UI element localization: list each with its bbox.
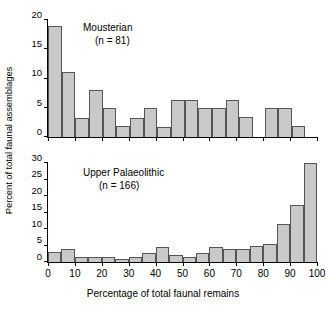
x-tick-mousterian-80 — [263, 137, 264, 141]
panel-upper-palaeolithic: 051015202530 0102030405060708090100 Uppe… — [47, 163, 317, 263]
x-tick-label-upper-palaeolithic-80: 80 — [258, 268, 269, 279]
bar-mousterian-20-25 — [103, 108, 117, 137]
x-tick-upper-palaeolithic-90 — [290, 262, 291, 266]
bar-mousterian-10-15 — [75, 118, 89, 137]
y-tick-label-upper-palaeolithic-20: 20 — [31, 184, 42, 195]
bar-mousterian-55-60 — [198, 108, 212, 137]
x-tick-upper-palaeolithic-40 — [156, 262, 157, 266]
bar-upper-palaeolithic-45-50 — [169, 255, 182, 262]
histogram-figure: Percent of total faunal assemblages 0510… — [0, 0, 326, 314]
y-tick-upper-palaeolithic-5 — [44, 245, 48, 246]
bar-mousterian-80-85 — [265, 108, 279, 137]
bar-mousterian-30-35 — [130, 118, 144, 137]
bar-mousterian-70-75 — [239, 117, 253, 137]
x-tick-label-upper-palaeolithic-60: 60 — [204, 268, 215, 279]
panel-title-upper-palaeolithic: Upper Palaeolithic — [83, 167, 164, 178]
bar-mousterian-0-5 — [48, 26, 62, 137]
bar-mousterian-5-10 — [62, 72, 76, 137]
y-tick-mousterian-5 — [44, 107, 48, 108]
x-tick-upper-palaeolithic-30 — [129, 262, 130, 266]
bar-upper-palaeolithic-55-60 — [196, 253, 209, 262]
y-tick-label-mousterian-10: 10 — [31, 67, 42, 78]
bar-mousterian-40-45 — [157, 127, 171, 137]
x-tick-upper-palaeolithic-0 — [48, 262, 49, 266]
y-tick-label-upper-palaeolithic-25: 25 — [31, 168, 42, 179]
bar-upper-palaeolithic-75-80 — [250, 246, 263, 262]
bar-upper-palaeolithic-0-5 — [48, 252, 61, 262]
bar-mousterian-60-65 — [212, 108, 226, 137]
y-tick-label-mousterian-15: 15 — [31, 38, 42, 49]
y-tick-label-mousterian-5: 5 — [37, 96, 42, 107]
x-tick-upper-palaeolithic-50 — [183, 262, 184, 266]
bar-group-mousterian — [48, 20, 317, 137]
panel-subtitle-upper-palaeolithic: (n = 166) — [99, 180, 139, 191]
x-tick-mousterian-30 — [129, 137, 130, 141]
x-tick-upper-palaeolithic-10 — [75, 262, 76, 266]
bar-upper-palaeolithic-85-90 — [277, 224, 290, 262]
y-tick-label-upper-palaeolithic-5: 5 — [37, 234, 42, 245]
y-axis-title-container: Percent of total faunal assemblages — [0, 0, 18, 280]
x-tick-mousterian-90 — [290, 137, 291, 141]
bar-upper-palaeolithic-40-45 — [156, 247, 169, 262]
bar-upper-palaeolithic-30-35 — [129, 257, 142, 262]
y-tick-label-upper-palaeolithic-10: 10 — [31, 217, 42, 228]
x-tick-mousterian-10 — [75, 137, 76, 141]
bar-upper-palaeolithic-60-65 — [209, 247, 222, 262]
y-tick-label-upper-palaeolithic-0: 0 — [37, 250, 42, 261]
y-tick-upper-palaeolithic-15 — [44, 212, 48, 213]
bar-upper-palaeolithic-10-15 — [75, 257, 88, 262]
y-tick-mousterian-15 — [44, 48, 48, 49]
bar-mousterian-25-30 — [116, 126, 130, 137]
y-axis-title: Percent of total faunal assemblages — [4, 66, 15, 214]
x-tick-mousterian-70 — [236, 137, 237, 141]
x-tick-mousterian-50 — [183, 137, 184, 141]
y-tick-mousterian-10 — [44, 78, 48, 79]
x-axis-title: Percentage of total faunal remains — [0, 288, 326, 299]
x-tick-mousterian-20 — [102, 137, 103, 141]
bar-mousterian-85-90 — [278, 108, 292, 137]
bar-upper-palaeolithic-50-55 — [183, 257, 196, 262]
bar-upper-palaeolithic-70-75 — [236, 249, 249, 262]
x-tick-label-upper-palaeolithic-50: 50 — [177, 268, 188, 279]
bar-mousterian-15-20 — [89, 90, 103, 137]
x-tick-label-upper-palaeolithic-10: 10 — [69, 268, 80, 279]
bar-mousterian-35-40 — [144, 108, 158, 137]
x-tick-mousterian-100 — [317, 137, 318, 141]
plot-area-upper-palaeolithic: 051015202530 0102030405060708090100 — [47, 163, 317, 263]
y-tick-mousterian-20 — [44, 19, 48, 20]
x-tick-label-upper-palaeolithic-100: 100 — [309, 268, 326, 279]
x-tick-upper-palaeolithic-80 — [263, 262, 264, 266]
bar-upper-palaeolithic-5-10 — [61, 249, 74, 262]
bar-upper-palaeolithic-90-95 — [290, 205, 303, 262]
bar-upper-palaeolithic-95-100 — [304, 163, 317, 262]
y-tick-upper-palaeolithic-30 — [44, 162, 48, 163]
bar-upper-palaeolithic-65-70 — [223, 249, 236, 262]
x-tick-label-upper-palaeolithic-90: 90 — [285, 268, 296, 279]
bar-upper-palaeolithic-20-25 — [102, 257, 115, 262]
bar-upper-palaeolithic-15-20 — [88, 257, 101, 262]
y-tick-label-upper-palaeolithic-15: 15 — [31, 201, 42, 212]
y-tick-label-mousterian-0: 0 — [37, 125, 42, 136]
x-tick-label-upper-palaeolithic-70: 70 — [231, 268, 242, 279]
bar-upper-palaeolithic-25-30 — [115, 259, 128, 262]
x-tick-label-upper-palaeolithic-30: 30 — [123, 268, 134, 279]
x-tick-mousterian-0 — [48, 137, 49, 141]
x-tick-upper-palaeolithic-70 — [236, 262, 237, 266]
bar-mousterian-50-55 — [185, 100, 199, 137]
x-tick-mousterian-60 — [209, 137, 210, 141]
bar-mousterian-45-50 — [171, 100, 185, 137]
x-tick-label-upper-palaeolithic-20: 20 — [96, 268, 107, 279]
y-tick-label-upper-palaeolithic-30: 30 — [31, 151, 42, 162]
panel-mousterian: 05101520 Mousterian (n = 81) — [47, 20, 317, 138]
x-tick-upper-palaeolithic-100 — [317, 262, 318, 266]
bar-mousterian-65-70 — [226, 100, 240, 137]
bar-mousterian-90-95 — [292, 126, 306, 137]
panel-title-mousterian: Mousterian — [83, 22, 132, 33]
x-tick-mousterian-40 — [156, 137, 157, 141]
y-tick-label-mousterian-20: 20 — [31, 8, 42, 19]
x-tick-label-upper-palaeolithic-0: 0 — [45, 268, 51, 279]
y-tick-upper-palaeolithic-20 — [44, 195, 48, 196]
plot-area-mousterian: 05101520 — [47, 20, 317, 138]
y-tick-upper-palaeolithic-25 — [44, 179, 48, 180]
bar-upper-palaeolithic-80-85 — [263, 244, 276, 262]
